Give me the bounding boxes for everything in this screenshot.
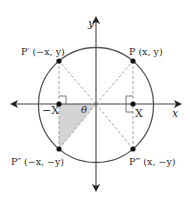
point-P-triple-prime xyxy=(130,146,135,151)
shaded-reference-triangle xyxy=(59,104,96,149)
label-P-double-prime: P″ (−x, −y) xyxy=(11,156,64,167)
x-axis-label: x xyxy=(172,107,179,120)
foot-point-X xyxy=(130,101,135,106)
label-P-triple-prime: P‴ (x, −y) xyxy=(129,156,176,167)
point-P-double-prime xyxy=(56,146,61,151)
angle-theta-label: θ xyxy=(81,104,87,115)
label-P-prime: P′ (−x, y) xyxy=(21,46,65,57)
label-X: X xyxy=(135,107,143,120)
label-neg-X: −X xyxy=(42,104,59,117)
point-P-prime xyxy=(56,58,61,63)
point-P xyxy=(130,58,135,63)
unit-circle-symmetry-diagram: y x P (x, y) P′ (−x, y) P″ (−x, −y) P‴ (… xyxy=(0,0,190,197)
label-P: P (x, y) xyxy=(129,46,163,57)
y-axis-label: y xyxy=(87,17,95,30)
